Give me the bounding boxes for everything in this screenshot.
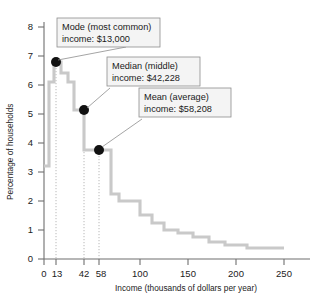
x-tick-label: 150 [180, 268, 196, 279]
mean-callout-line1: Mean (average) [144, 92, 209, 102]
y-tick-label: 5 [28, 108, 33, 119]
x-axis-tick-labels: 0 13 42 58 100 150 200 250 [41, 268, 292, 279]
income-distribution-chart: Percentage of households 0 1 2 3 4 5 6 7… [0, 0, 322, 297]
y-tick-label: 7 [28, 50, 33, 61]
median-leader-line [87, 88, 110, 108]
median-marker-dot [79, 105, 89, 115]
mean-callout: Mean (average) income: $58,208 [139, 88, 231, 117]
x-axis-ticks [44, 259, 284, 265]
mean-callout-line2: income: $58,208 [144, 104, 212, 114]
y-tick-label: 1 [28, 224, 33, 235]
mode-callout: Mode (most common) income: $13,000 [57, 18, 160, 47]
y-axis-ticks [38, 27, 44, 259]
y-axis-title: Percentage of households [5, 104, 15, 200]
y-tick-label: 2 [28, 195, 33, 206]
mode-callout-line2: income: $13,000 [62, 34, 130, 44]
x-axis-title: Income (thousands of dollars per year) [115, 283, 257, 293]
y-tick-label: 4 [28, 137, 33, 148]
median-callout-line1: Median (middle) [112, 61, 178, 71]
mean-leader-line [102, 119, 142, 147]
mode-callout-line1: Mode (most common) [62, 22, 151, 32]
median-callout: Median (middle) income: $42,228 [107, 57, 200, 86]
y-tick-label: 8 [28, 21, 33, 32]
x-tick-label: 42 [79, 268, 90, 279]
median-callout-line2: income: $42,228 [112, 73, 180, 83]
y-tick-label: 6 [28, 79, 33, 90]
x-tick-label: 58 [96, 268, 107, 279]
mode-marker-dot [51, 57, 61, 67]
y-tick-label: 0 [28, 253, 33, 264]
x-tick-label: 250 [276, 268, 292, 279]
x-tick-label: 13 [52, 268, 63, 279]
chart-svg: Percentage of households 0 1 2 3 4 5 6 7… [0, 0, 322, 297]
value-markers [51, 57, 104, 155]
x-tick-label: 100 [132, 268, 148, 279]
y-axis-tick-labels: 0 1 2 3 4 5 6 7 8 [28, 21, 33, 264]
x-tick-label: 200 [228, 268, 244, 279]
x-tick-label: 0 [41, 268, 46, 279]
y-tick-label: 3 [28, 166, 33, 177]
guide-lines [56, 62, 99, 259]
